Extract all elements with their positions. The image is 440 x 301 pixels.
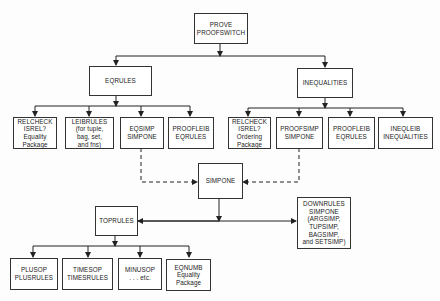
node-plusop: PLUSOP PLUSRULES	[10, 258, 58, 290]
node-ineq-proofleib: PROOFLEIB EQRULES	[328, 117, 375, 149]
node-ineq-relcheck: RELCHECK ISREL? Ordering Package	[228, 117, 271, 149]
node-timesop: TIMESOP TIMESRULES	[62, 258, 113, 290]
node-simpone: SIMPONE	[198, 163, 243, 199]
node-eq-leibrules: LEIBRULES (for tuple, bag, set, and fns)	[65, 117, 114, 149]
node-minusop: MINUSOP . . . etc.	[118, 258, 162, 290]
node-eq-eqsimp: EQSIMP SIMPONE	[120, 117, 164, 149]
node-ineq-proofsimp: PROOFSIMP SIMPONE	[276, 117, 323, 149]
node-eqrules: EQRULES	[89, 66, 152, 96]
connector-lines	[0, 0, 440, 301]
node-inequalities: INEQUALITIES	[297, 68, 353, 98]
node-prove-proofswitch: PROVE PROOFSWITCH	[194, 13, 248, 44]
diagram-canvas: PROVE PROOFSWITCH EQRULES INEQUALITIES R…	[0, 0, 440, 301]
node-eq-relcheck: RELCHECK ISREL? Equality Package	[13, 117, 57, 149]
node-eqnumb: EQNUMB Equality Package	[166, 259, 211, 291]
node-downrules: DOWNRULES SIMPONE (ARGSIMP, TUPSIMP, BAG…	[297, 197, 351, 249]
node-eq-proofleib: PROOFLEIB EQRULES	[168, 117, 214, 149]
node-ineq-ineqleib: INEQLEIB INEQUALITIES	[378, 117, 433, 149]
node-toprules: TOPRULES	[95, 206, 138, 236]
